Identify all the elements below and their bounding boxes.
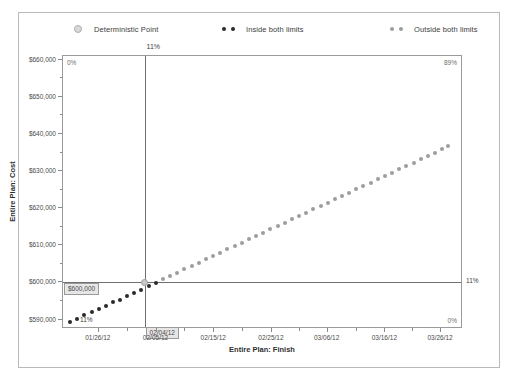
top-right-percent-label: 89%: [444, 59, 457, 66]
data-point[interactable]: [139, 288, 143, 292]
data-point[interactable]: [369, 181, 373, 185]
x-axis-title: Entire Plan: Finish: [62, 345, 462, 354]
data-point[interactable]: [404, 164, 408, 168]
y-axis-tick-label: $620,000: [29, 204, 56, 211]
data-point[interactable]: [383, 174, 387, 178]
data-point[interactable]: [354, 187, 358, 191]
data-point[interactable]: [347, 191, 351, 195]
x-axis-tick-label: 01/26/12: [85, 334, 110, 341]
data-point[interactable]: [125, 294, 129, 298]
x-axis-tick: [271, 328, 272, 332]
data-point[interactable]: [204, 257, 208, 261]
data-point[interactable]: [446, 144, 450, 148]
horizontal-reference-line: [63, 282, 461, 283]
y-axis-tick-label: $610,000: [29, 241, 56, 248]
data-point[interactable]: [218, 251, 222, 255]
data-point[interactable]: [440, 147, 444, 151]
data-point[interactable]: [240, 241, 244, 245]
x-axis-tick: [327, 328, 328, 332]
data-point[interactable]: [268, 227, 272, 231]
scatter-chart-root: Deterministic Point Inside both limits O…: [0, 0, 517, 381]
data-point[interactable]: [182, 267, 186, 271]
data-point[interactable]: [261, 231, 265, 235]
x-axis-minor-tick: [299, 328, 300, 331]
data-point[interactable]: [247, 237, 251, 241]
data-point[interactable]: [68, 320, 72, 324]
x-axis-tick: [156, 328, 157, 332]
y-axis-tick-label: $630,000: [29, 167, 56, 174]
data-point[interactable]: [118, 298, 122, 302]
x-axis-minor-tick: [184, 328, 185, 331]
x-axis-tick: [384, 328, 385, 332]
data-point[interactable]: [197, 261, 201, 265]
data-point[interactable]: [211, 254, 215, 258]
data-point[interactable]: [90, 310, 94, 314]
x-axis-tick: [440, 328, 441, 332]
x-axis-minor-tick: [356, 328, 357, 331]
x-axis-tick-label: 02/05/12: [143, 334, 168, 341]
data-point[interactable]: [111, 300, 115, 304]
data-point[interactable]: [175, 271, 179, 275]
data-point[interactable]: [376, 177, 380, 181]
data-point[interactable]: [319, 204, 323, 208]
y-axis-title-text: Entire Plan: Cost: [8, 161, 17, 221]
data-point[interactable]: [297, 214, 301, 218]
data-point[interactable]: [433, 151, 437, 155]
data-point[interactable]: [426, 154, 430, 158]
data-point[interactable]: [190, 264, 194, 268]
vertical-reference-line: [145, 55, 146, 328]
x-axis-tick-label: 02/15/12: [201, 334, 226, 341]
horizontal-line-percent-label: 11%: [466, 277, 479, 284]
data-point[interactable]: [340, 194, 344, 198]
data-point[interactable]: [304, 211, 308, 215]
cost-reference-box: $600,000: [64, 283, 99, 295]
deterministic-point-marker[interactable]: [141, 279, 148, 286]
data-point[interactable]: [154, 281, 158, 285]
x-axis-tick: [213, 328, 214, 332]
data-point[interactable]: [276, 224, 280, 228]
data-point[interactable]: [412, 161, 416, 165]
data-point[interactable]: [97, 307, 101, 311]
x-axis-minor-tick: [242, 328, 243, 331]
x-axis-tick-label: 03/16/12: [372, 334, 397, 341]
y-axis-title: Entire Plan: Cost: [6, 55, 18, 328]
data-point[interactable]: [290, 217, 294, 221]
data-point[interactable]: [161, 277, 165, 281]
data-point[interactable]: [168, 274, 172, 278]
data-point[interactable]: [283, 221, 287, 225]
vertical-line-percent-label: 11%: [147, 43, 161, 50]
data-point[interactable]: [254, 234, 258, 238]
data-point[interactable]: [326, 201, 330, 205]
y-axis-tick-label: $600,000: [29, 278, 56, 285]
data-point[interactable]: [233, 244, 237, 248]
y-axis-tick-label: $660,000: [29, 55, 56, 62]
data-point[interactable]: [132, 291, 136, 295]
y-axis-tick-label: $650,000: [29, 92, 56, 99]
data-point[interactable]: [75, 317, 79, 321]
data-point[interactable]: [104, 304, 108, 308]
x-axis-tick: [98, 328, 99, 332]
data-point[interactable]: [225, 247, 229, 251]
top-left-percent-label: 0%: [67, 59, 76, 66]
data-point[interactable]: [419, 157, 423, 161]
plot-wrapper: $660,000$650,000$640,000$630,000$620,000…: [0, 0, 517, 381]
x-axis-tick-label: 03/26/12: [427, 334, 452, 341]
bottom-right-percent-label: 0%: [448, 317, 457, 324]
data-point[interactable]: [397, 167, 401, 171]
data-point[interactable]: [311, 207, 315, 211]
plot-area[interactable]: 0% 89% 0%: [62, 55, 462, 328]
bottom-left-percent-label: 11%: [80, 316, 93, 323]
data-point[interactable]: [333, 197, 337, 201]
x-axis-minor-tick: [412, 328, 413, 331]
x-axis-tick-label: 02/25/12: [258, 334, 283, 341]
y-axis-tick-label: $640,000: [29, 129, 56, 136]
data-point[interactable]: [390, 171, 394, 175]
y-axis-tick-label: $590,000: [29, 315, 56, 322]
x-axis-tick-label: 03/06/12: [314, 334, 339, 341]
x-axis-minor-tick: [127, 328, 128, 331]
data-point[interactable]: [361, 184, 365, 188]
